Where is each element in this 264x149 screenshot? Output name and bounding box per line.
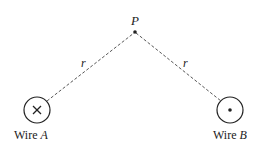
point-p-label: P — [130, 13, 139, 28]
wire-a-label: Wire A — [14, 128, 49, 142]
point-p-dot — [133, 30, 137, 34]
diagram-canvas: P r r Wire A Wire B — [0, 0, 264, 149]
distance-label-left: r — [81, 56, 86, 70]
distance-label-right: r — [183, 56, 188, 70]
wire-b-label: Wire B — [213, 128, 248, 142]
dashed-line-p-to-b — [136, 33, 221, 101]
wire-a-into-page-icon — [24, 97, 50, 123]
dashed-line-a-to-p — [47, 33, 134, 101]
wire-b-out-of-page-icon — [217, 97, 243, 123]
